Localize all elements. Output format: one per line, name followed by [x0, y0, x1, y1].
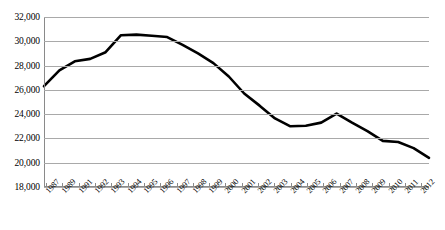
gridline — [44, 163, 429, 164]
gridline — [44, 138, 429, 139]
gridline — [44, 90, 429, 91]
line-chart: 32,00030,00028,00026,00024,00022,00020,0… — [0, 0, 445, 230]
y-axis-tick-label: 22,000 — [14, 133, 40, 143]
y-axis-labels: 32,00030,00028,00026,00024,00022,00020,0… — [0, 17, 40, 187]
gridline — [44, 41, 429, 42]
y-axis-tick-label: 18,000 — [14, 182, 40, 192]
y-axis-line — [44, 17, 45, 187]
series-line — [44, 17, 429, 187]
y-axis-tick-label: 32,000 — [14, 12, 40, 22]
y-axis-tick-label: 26,000 — [14, 85, 40, 95]
y-axis-tick-label: 20,000 — [14, 158, 40, 168]
gridline — [44, 114, 429, 115]
gridline — [44, 17, 429, 18]
gridline — [44, 66, 429, 67]
x-axis-labels: 1987198919911992199319941995199619971998… — [44, 189, 429, 230]
plot-area — [44, 17, 429, 187]
y-axis-tick-label: 30,000 — [14, 36, 40, 46]
y-axis-tick-label: 24,000 — [14, 109, 40, 119]
y-axis-tick-label: 28,000 — [14, 61, 40, 71]
